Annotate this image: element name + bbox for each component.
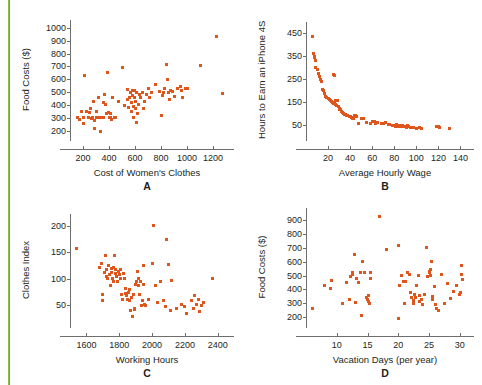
y-tick bbox=[303, 79, 307, 80]
data-point bbox=[80, 110, 83, 113]
data-point bbox=[345, 281, 348, 284]
x-axis-title: Working Hours bbox=[56, 354, 238, 365]
data-point bbox=[197, 298, 200, 301]
data-point bbox=[78, 118, 81, 121]
data-point bbox=[171, 90, 174, 93]
panel-letter: D bbox=[292, 367, 478, 379]
data-point bbox=[158, 90, 161, 93]
data-point bbox=[221, 92, 224, 95]
data-point bbox=[460, 264, 463, 267]
data-point bbox=[429, 268, 432, 271]
data-point bbox=[355, 115, 358, 118]
data-point bbox=[190, 299, 193, 302]
data-point bbox=[211, 277, 214, 280]
data-point bbox=[369, 271, 372, 274]
data-point bbox=[202, 301, 205, 304]
data-point bbox=[134, 107, 137, 110]
data-point bbox=[121, 298, 124, 301]
data-point bbox=[154, 284, 157, 287]
data-point bbox=[443, 302, 446, 305]
data-point bbox=[113, 254, 116, 257]
data-point bbox=[159, 280, 162, 283]
data-point bbox=[130, 110, 133, 113]
y-tick bbox=[303, 56, 307, 57]
x-tick bbox=[368, 333, 369, 337]
data-point bbox=[430, 260, 433, 263]
data-point bbox=[353, 253, 356, 256]
data-point bbox=[101, 293, 104, 296]
data-point bbox=[169, 309, 172, 312]
data-point bbox=[92, 100, 95, 103]
data-point bbox=[135, 121, 138, 124]
data-point bbox=[151, 262, 154, 265]
data-point bbox=[175, 307, 178, 310]
data-point bbox=[111, 96, 114, 99]
data-point bbox=[330, 279, 333, 282]
x-tick bbox=[86, 333, 87, 337]
data-point bbox=[136, 270, 139, 273]
data-point bbox=[448, 127, 451, 130]
data-point bbox=[425, 246, 428, 249]
data-point bbox=[455, 284, 458, 287]
y-axis-title: Food Costs ($) bbox=[256, 208, 267, 326]
data-point bbox=[180, 89, 183, 92]
panel-letter: C bbox=[56, 367, 238, 379]
x-tick-label: 1200 bbox=[191, 153, 235, 163]
data-point bbox=[100, 262, 103, 265]
data-point bbox=[112, 280, 115, 283]
data-point bbox=[165, 63, 168, 66]
data-point bbox=[142, 264, 145, 267]
data-point bbox=[82, 116, 85, 119]
x-tick bbox=[83, 146, 84, 150]
data-point bbox=[367, 294, 370, 297]
data-point bbox=[121, 66, 124, 69]
data-point bbox=[102, 116, 105, 119]
data-point bbox=[311, 307, 314, 310]
x-tick bbox=[152, 333, 153, 337]
data-point bbox=[355, 277, 358, 280]
data-point bbox=[123, 277, 126, 280]
data-point bbox=[142, 107, 145, 110]
x-tick bbox=[416, 146, 417, 150]
data-point bbox=[461, 278, 464, 281]
data-point bbox=[185, 312, 188, 315]
x-tick bbox=[438, 146, 439, 150]
data-point bbox=[360, 314, 363, 317]
data-point bbox=[137, 103, 140, 106]
y-tick bbox=[67, 226, 71, 227]
data-point bbox=[103, 271, 106, 274]
data-point bbox=[423, 293, 426, 296]
data-point bbox=[88, 111, 91, 114]
data-point bbox=[397, 244, 400, 247]
y-tick bbox=[303, 102, 307, 103]
data-point bbox=[429, 274, 432, 277]
data-point bbox=[89, 107, 92, 110]
data-point bbox=[446, 282, 449, 285]
data-point bbox=[400, 274, 403, 277]
data-point bbox=[83, 74, 86, 77]
data-point bbox=[200, 304, 203, 307]
data-point bbox=[122, 272, 125, 275]
y-tick bbox=[67, 92, 71, 93]
data-point bbox=[420, 127, 423, 130]
data-point bbox=[130, 296, 133, 299]
chart-panel-b: 5015025035045020406080100120140Average H… bbox=[248, 14, 476, 189]
data-point bbox=[414, 296, 417, 299]
data-point bbox=[449, 297, 452, 300]
x-tick bbox=[398, 333, 399, 337]
y-tick bbox=[67, 28, 71, 29]
data-point bbox=[323, 284, 326, 287]
y-axis-line bbox=[306, 208, 307, 328]
data-point bbox=[341, 302, 344, 305]
data-point bbox=[141, 299, 144, 302]
data-point bbox=[359, 271, 362, 274]
data-point bbox=[460, 273, 463, 276]
data-point bbox=[363, 271, 366, 274]
data-point bbox=[165, 238, 168, 241]
data-point bbox=[329, 287, 332, 290]
data-point bbox=[120, 293, 123, 296]
chart-panel-a: 2003004005006007008009001000200400600800… bbox=[18, 14, 236, 189]
data-point bbox=[116, 280, 119, 283]
data-point bbox=[152, 224, 155, 227]
data-point bbox=[409, 291, 412, 294]
